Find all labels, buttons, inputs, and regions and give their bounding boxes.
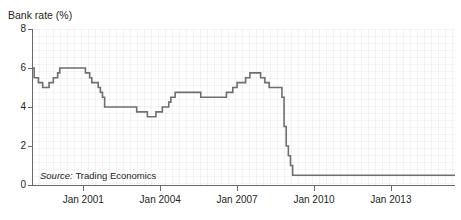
y-tick-8 (28, 29, 33, 30)
y-tick-4 (28, 107, 33, 108)
x-tick-jan-2004 (160, 186, 161, 191)
x-tick-jan-2007 (237, 186, 238, 191)
plot-area (32, 29, 455, 185)
x-tick-jan-2013 (391, 186, 392, 191)
x-tick-jan-2010 (314, 186, 315, 191)
y-tick-label-4: 4 (6, 102, 26, 112)
x-tick-jan-2001 (83, 186, 84, 191)
x-tick-label-jan-2001: Jan 2001 (48, 194, 118, 205)
y-tick-label-8: 8 (6, 24, 26, 34)
y-tick-label-2: 2 (6, 141, 26, 151)
y-tick-label-6: 6 (6, 63, 26, 73)
x-tick-label-jan-2010: Jan 2010 (279, 194, 349, 205)
x-tick-label-jan-2013: Jan 2013 (356, 194, 426, 205)
series-line-bank-rate (32, 29, 455, 185)
bank-rate-chart: Bank rate (%) 02468 Jan 2001Jan 2004Jan … (0, 0, 461, 220)
y-tick-6 (28, 68, 33, 69)
chart-axis-title: Bank rate (%) (8, 9, 72, 21)
source-note-prefix: Source: (40, 170, 73, 181)
source-note-value: Trading Economics (75, 170, 156, 181)
y-tick-label-0: 0 (6, 180, 26, 190)
y-tick-0 (28, 185, 33, 186)
x-tick-label-jan-2004: Jan 2004 (125, 194, 195, 205)
y-tick-2 (28, 146, 33, 147)
x-tick-label-jan-2007: Jan 2007 (202, 194, 272, 205)
source-note: Source: Trading Economics (40, 170, 156, 181)
